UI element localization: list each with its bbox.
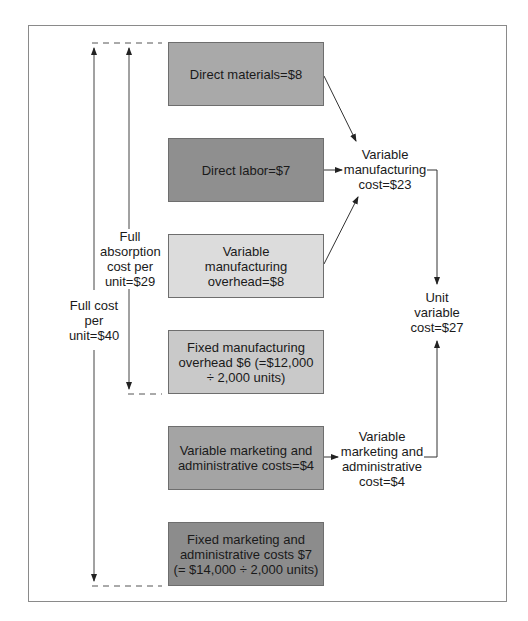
variable-mfg-overhead-box: Variable manufacturing overhead=$8 — [168, 234, 324, 298]
direct-materials-label: Direct materials=$8 — [190, 67, 302, 82]
direct-materials-box: Direct materials=$8 — [168, 42, 324, 106]
direct-labor-label: Direct labor=$7 — [202, 163, 291, 178]
full-absorption-cost-label: Full absorption cost per unit=$29 — [100, 229, 160, 289]
variable-mkt-admin-cost-label: Variable marketing and administrative co… — [340, 429, 424, 489]
full-cost-label: Full cost per unit=$40 — [66, 298, 122, 343]
fixed-mkt-admin-label: Fixed marketing and administrative costs… — [173, 532, 319, 577]
variable-mfg-overhead-label: Variable manufacturing overhead=$8 — [181, 244, 311, 289]
unit-variable-cost-label: Unit variable cost=$27 — [403, 290, 471, 335]
variable-mkt-admin-label: Variable marketing and administrative co… — [176, 443, 316, 473]
variable-mkt-admin-box: Variable marketing and administrative co… — [168, 426, 324, 490]
fixed-mkt-admin-box: Fixed marketing and administrative costs… — [168, 522, 324, 586]
fixed-mfg-overhead-box: Fixed manufacturing overhead $6 (=$12,00… — [168, 330, 324, 394]
fixed-mfg-overhead-label: Fixed manufacturing overhead $6 (=$12,00… — [176, 340, 316, 385]
direct-labor-box: Direct labor=$7 — [168, 138, 324, 202]
variable-mfg-cost-label: Variable manufacturing cost=$23 — [343, 147, 427, 192]
